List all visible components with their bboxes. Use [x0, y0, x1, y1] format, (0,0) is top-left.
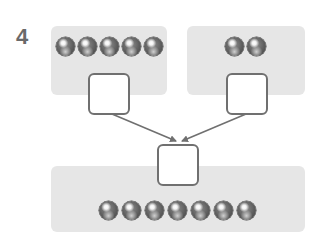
- marble-icon: [100, 37, 119, 56]
- marble-icon: [78, 37, 97, 56]
- problem-number: 4: [16, 26, 28, 48]
- marble-icon: [144, 37, 163, 56]
- ball-row-top-left: [56, 37, 163, 56]
- marble-icon: [145, 201, 164, 220]
- marble-icon: [237, 201, 256, 220]
- arrow-icon: [112, 114, 176, 141]
- marble-icon: [225, 37, 244, 56]
- marble-icon: [56, 37, 75, 56]
- marble-icon: [99, 201, 118, 220]
- marble-icon: [122, 37, 141, 56]
- answer-box-right[interactable]: [226, 73, 268, 115]
- answer-box-left[interactable]: [88, 73, 130, 115]
- ball-row-bottom: [99, 201, 256, 220]
- marble-icon: [247, 37, 266, 56]
- marble-icon: [168, 201, 187, 220]
- marble-icon: [122, 201, 141, 220]
- arrow-icon: [182, 114, 246, 141]
- answer-box-total[interactable]: [157, 144, 199, 186]
- marble-icon: [214, 201, 233, 220]
- marble-icon: [191, 201, 210, 220]
- ball-row-top-right: [225, 37, 266, 56]
